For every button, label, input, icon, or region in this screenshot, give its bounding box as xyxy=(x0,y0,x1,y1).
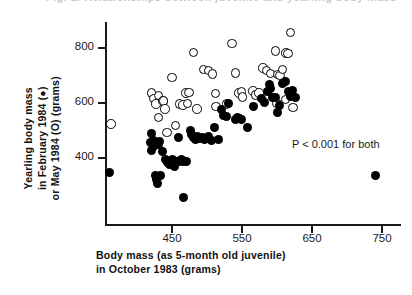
y-tick-600 xyxy=(98,102,105,104)
data-point-filled xyxy=(155,137,164,146)
data-point-open xyxy=(238,92,248,102)
data-point-open xyxy=(189,48,199,58)
data-point-filled xyxy=(222,112,231,121)
y-tick-800 xyxy=(98,47,105,49)
data-point-open xyxy=(208,69,218,79)
data-point-filled xyxy=(158,147,167,156)
data-point-open xyxy=(286,28,296,38)
data-point-open xyxy=(162,128,172,138)
data-point-filled xyxy=(179,193,188,202)
data-point-filled xyxy=(153,179,162,188)
y-axis-title: Yearling body mass in February 1984 (●) … xyxy=(22,38,63,238)
data-point-filled xyxy=(210,123,219,132)
data-point-open xyxy=(288,103,298,113)
y-axis-title-line-1: Yearling body mass xyxy=(22,38,36,238)
data-point-open xyxy=(184,88,194,98)
data-point-open xyxy=(211,89,221,99)
data-point-open xyxy=(183,99,193,109)
data-point-open xyxy=(271,46,281,56)
y-axis-title-line-3: or May 1984 (O) (grams) xyxy=(49,38,63,238)
data-point-filled xyxy=(214,135,223,144)
data-point-open xyxy=(154,113,164,123)
data-point-open xyxy=(278,65,288,75)
y-axis-title-line-2: in February 1984 (●) xyxy=(35,38,49,238)
data-point-filled xyxy=(182,157,191,166)
data-point-filled xyxy=(291,93,300,102)
data-point-open xyxy=(167,73,177,83)
data-point-filled xyxy=(156,171,165,180)
data-point-open xyxy=(227,39,237,49)
x-axis-title-line-1: Body mass (as 5-month old juvenile) xyxy=(96,248,396,262)
data-point-open xyxy=(283,49,293,59)
data-point-filled xyxy=(281,77,290,86)
data-point-filled xyxy=(249,102,258,111)
scatter-plot-figure: Fig. 1. Relationships between juvenile a… xyxy=(0,0,412,295)
x-axis-title: Body mass (as 5-month old juvenile) in O… xyxy=(96,248,396,276)
data-point-open xyxy=(160,104,170,114)
data-point-filled xyxy=(275,101,284,110)
data-point-filled xyxy=(174,133,183,142)
data-point-open xyxy=(231,68,241,78)
data-point-open xyxy=(171,121,181,131)
x-axis-title-line-2: in October 1983 (grams) xyxy=(96,262,396,276)
data-points-layer xyxy=(105,22,401,225)
clipped-caption-text: Fig. 1. Relationships between juvenile a… xyxy=(46,0,397,3)
data-point-filled xyxy=(224,99,233,108)
data-point-open xyxy=(192,104,202,114)
y-tick-400 xyxy=(98,157,105,159)
data-point-filled xyxy=(243,123,252,132)
x-tick-label-750: 750 xyxy=(360,232,404,244)
data-point-filled xyxy=(105,168,114,177)
x-tick-label-450: 450 xyxy=(150,232,194,244)
data-point-open xyxy=(106,119,116,129)
data-point-filled xyxy=(371,171,380,180)
x-tick-label-650: 650 xyxy=(290,232,334,244)
x-tick-label-550: 550 xyxy=(220,232,264,244)
